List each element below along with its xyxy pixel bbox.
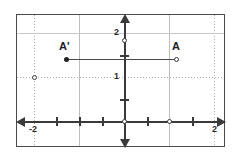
gridline-vertical-x-minus1	[79, 15, 80, 146]
x-axis-left-arrow-icon	[16, 117, 25, 127]
y-axis-label-plus2: 2	[114, 28, 119, 37]
marker-y-axis-point	[122, 38, 127, 43]
marker-x-axis-point	[167, 119, 172, 124]
coordinate-plane-screenshot: A' A -2 2 1 2	[0, 0, 241, 162]
y-tick-plus1p5	[120, 55, 129, 57]
y-tick-plus0p5	[120, 99, 129, 101]
marker-left-gridline-point	[32, 75, 37, 80]
label-point-a-prime: A'	[59, 41, 70, 52]
gridline-vertical-x-plus1	[169, 15, 170, 146]
marker-point-a	[174, 57, 179, 62]
marker-point-a-prime	[64, 57, 70, 63]
x-tick-minus1p5	[56, 117, 58, 126]
x-axis-label-plus2: 2	[212, 125, 217, 134]
y-axis-top-arrow-icon	[120, 14, 130, 23]
x-tick-plus0p5	[147, 117, 149, 126]
x-tick-plus1p5	[192, 117, 194, 126]
y-axis-label-plus1: 1	[114, 72, 119, 81]
plot-frame: A' A -2 2 1 2	[16, 14, 225, 147]
gridline-horizontal-y-plus2	[17, 33, 224, 34]
segment-a-prime-to-a	[66, 59, 176, 61]
gridline-horizontal-y-plus1	[17, 77, 224, 78]
label-point-a: A	[172, 41, 180, 52]
x-tick-minus0p5	[102, 117, 104, 126]
x-axis-right-arrow-icon	[217, 117, 226, 127]
x-axis-label-minus2: -2	[29, 125, 37, 134]
y-axis-bottom-arrow-icon	[120, 139, 130, 148]
marker-origin	[122, 119, 127, 124]
x-tick-minus1	[79, 117, 81, 126]
